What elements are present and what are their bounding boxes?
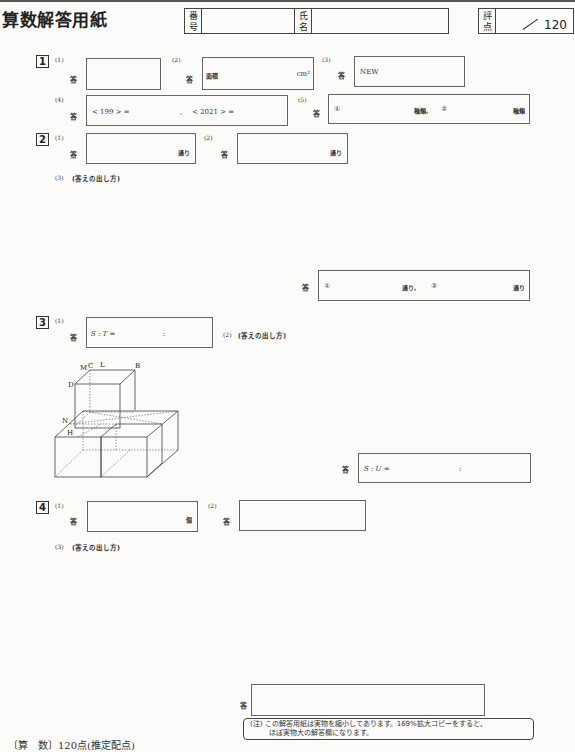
name-label: 氏 名 (295, 9, 312, 33)
edge (75, 384, 120, 428)
q2-3-choice-2: ② (431, 282, 437, 290)
q2-3-choice-1-unit: 通り, (402, 283, 416, 292)
q3-1-answer-box[interactable]: S : T = : (86, 317, 213, 348)
q3-2-answer-box[interactable]: S : U = : (358, 453, 531, 483)
hidden-edge (101, 450, 130, 477)
name-label-2: 名 (295, 22, 311, 33)
top-rule (0, 0, 575, 2)
label-h: H (67, 429, 73, 437)
q3-1-answer-label: 答 (70, 332, 77, 342)
q1-3-answer-label: 答 (338, 70, 345, 80)
q2-3-label: (3) (55, 174, 64, 181)
hidden-edge (83, 411, 162, 424)
q2-3-method-label: (答えの出し方) (72, 173, 120, 183)
note-text-1: この解答用紙は実物を縮小してあります。169%拡大コピーをすると、 (265, 720, 487, 728)
student-number-field[interactable] (202, 9, 295, 33)
q3-2-method-label: (答えの出し方) (238, 330, 286, 340)
q2-1-answer-box[interactable]: 通り (86, 133, 196, 164)
edge (75, 370, 90, 384)
label-c: C (88, 362, 93, 370)
q4-2-label: (2) (208, 502, 217, 509)
label-l: L (100, 361, 105, 369)
q2-2-answer-box[interactable]: 通り (237, 133, 348, 164)
q4-1-answer-label: 答 (70, 516, 77, 526)
edge (101, 424, 116, 437)
q2-1-unit: 通り (178, 148, 190, 157)
q1-5-answer-box[interactable]: ① 種類, ② 種類 (328, 94, 530, 124)
q4-3-answer-box[interactable] (251, 684, 485, 716)
q2-2-label: (2) (204, 134, 213, 141)
label-b: B (135, 362, 140, 370)
student-name-field[interactable] (312, 9, 448, 33)
q1-4-answer-box[interactable]: < 199 > = , < 2021 > = (86, 95, 288, 126)
q2-3-choice-2-unit: 通り (513, 283, 525, 292)
q4-1-unit: 個 (186, 515, 192, 524)
choice-1-unit: 種類, (414, 106, 428, 115)
edge (147, 463, 162, 477)
q4-3-working-area[interactable] (86, 555, 536, 675)
q2-3-working-area[interactable] (86, 185, 536, 260)
q1-1-answer-box[interactable] (86, 58, 161, 90)
q1-5-label: (5) (298, 96, 307, 103)
q3-2-answer-label: 答 (342, 464, 349, 474)
score-label-2: 点 (479, 22, 495, 33)
q1-1-label: (1) (55, 56, 64, 63)
label-n: N (62, 417, 68, 425)
q4-2-answer-label: 答 (223, 516, 230, 526)
q2-3-choice-1: ① (324, 282, 330, 290)
part-separator: , (180, 108, 182, 116)
name-label-1: 氏 (295, 11, 311, 22)
q4-1-answer-box[interactable]: 個 (87, 501, 198, 532)
q2-1-label: (1) (55, 134, 64, 141)
su-ratio-prefix: S : U = (364, 465, 390, 473)
su-ratio-colon: : (459, 465, 461, 473)
q4-3-label: (3) (55, 543, 64, 550)
slash-mark (523, 19, 538, 30)
hidden-edge (78, 424, 101, 437)
number-label: 番 号 (185, 9, 202, 33)
q3-2-label: (2) (223, 331, 232, 338)
q1-3-label: (3) (322, 56, 331, 63)
q2-1-answer-label: 答 (70, 149, 77, 159)
footer-note: (注) この解答用紙は実物を縮小してあります。169%拡大コピーをすると、 ほぼ… (243, 718, 534, 740)
choice-2: ② (441, 105, 447, 113)
choice-1: ① (334, 105, 340, 113)
q4-2-answer-box[interactable] (239, 500, 366, 531)
q1-5-answer-label: 答 (313, 108, 320, 118)
q2-3-answer-box[interactable]: ① 通り, ② 通り (318, 270, 530, 301)
student-number-name-box: 番 号 氏 名 (184, 8, 449, 34)
number-label-1: 番 (185, 11, 201, 22)
edge (101, 437, 147, 477)
q1-4-label: (4) (55, 96, 64, 103)
score-label-1: 評 (479, 11, 495, 22)
number-label-2: 号 (185, 22, 201, 33)
question-4-number: 4 (36, 501, 49, 514)
new-prefix: NEW (360, 68, 378, 76)
q4-3-method-label: (答えの出し方) (72, 542, 120, 552)
choice-2-unit: 種類 (513, 106, 525, 115)
q1-2-answer-box[interactable]: 面積 cm² (202, 57, 314, 90)
label-m: M (80, 364, 87, 372)
note-prefix: (注) (250, 720, 262, 728)
scoring-note: 〔算 数〕120点(推定配点) (8, 737, 135, 752)
page-title: 算数解答用紙 (2, 6, 107, 31)
q4-1-label: (1) (55, 502, 64, 509)
hidden-edge (55, 450, 83, 477)
note-line-1: (注) この解答用紙は実物を縮小してあります。169%拡大コピーをすると、 (250, 720, 527, 729)
st-ratio-colon: : (163, 330, 165, 338)
score-label: 評 点 (479, 9, 496, 33)
q1-1-answer-label: 答 (70, 74, 77, 84)
q3-1-label: (1) (55, 317, 64, 324)
area-unit: cm² (297, 70, 310, 78)
cube-figure: M C L B D N H (50, 360, 200, 480)
area-prefix: 面積 (206, 71, 218, 80)
score-total: 120 (544, 18, 567, 32)
score-box: 評 点 120 (478, 8, 574, 34)
note-text-2: ほぼ実物大の解答欄になります。 (250, 729, 527, 738)
part-b-label: < 2021 > = (192, 108, 234, 116)
q2-2-unit: 通り (330, 148, 342, 157)
q2-3-answer-label: 答 (302, 282, 309, 292)
q1-4-answer-label: 答 (70, 111, 77, 121)
edge (55, 437, 101, 477)
q1-3-answer-box[interactable]: NEW (354, 56, 465, 87)
